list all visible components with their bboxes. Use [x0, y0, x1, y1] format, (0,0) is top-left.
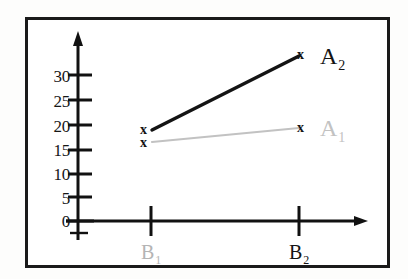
data-point-a1-b1: x: [140, 136, 147, 150]
x-axis-arrow-icon: [354, 216, 368, 226]
data-point-a1-b2: x: [297, 121, 304, 135]
series-label-a1-subscript: 1: [337, 130, 345, 145]
y-axis-label-30: 30: [36, 68, 70, 85]
series-line-a2: [152, 56, 299, 130]
x-axis-category-label-b1: B1: [141, 242, 161, 270]
y-axis-label-10: 10: [36, 166, 70, 183]
y-axis-label-5: 5: [36, 190, 70, 207]
x-axis-category-b1-base: B: [141, 241, 154, 263]
y-axis-label-0: 0: [36, 213, 70, 230]
series-label-a2-subscript: 2: [337, 58, 345, 73]
x-axis-category-b2-subscript: 2: [302, 253, 309, 267]
plot-area: 30 25 20 15 10 5 0 x x x x A2 A1 B1 B2: [0, 0, 408, 279]
y-axis-label-15: 15: [36, 142, 70, 159]
series-label-a2: A2: [320, 44, 345, 78]
x-axis-category-b2-base: B: [289, 241, 302, 263]
chart-canvas: [0, 0, 408, 279]
series-label-a2-base: A: [320, 43, 337, 69]
series-label-a1: A1: [320, 116, 345, 150]
series-label-a1-base: A: [320, 115, 337, 141]
y-axis-label-20: 20: [36, 118, 70, 135]
x-axis-category-label-b2: B2: [289, 242, 309, 270]
chart-screenshot: 30 25 20 15 10 5 0 x x x x A2 A1 B1 B2: [0, 0, 408, 279]
x-axis-category-b1-subscript: 1: [154, 253, 161, 267]
y-axis-label-25: 25: [36, 93, 70, 110]
y-axis-arrow-icon: [73, 31, 83, 46]
data-point-a2-b2: x: [297, 48, 304, 62]
series-line-a1: [152, 128, 299, 142]
